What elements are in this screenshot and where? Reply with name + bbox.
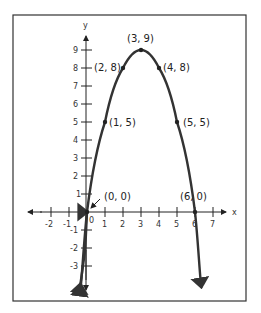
x-axis-label: x <box>232 208 237 217</box>
data-point <box>157 66 161 70</box>
y-tick-label: -2 <box>70 244 78 253</box>
point-label: (4, 8) <box>163 62 190 73</box>
data-point <box>103 120 107 124</box>
x-tick-label: 2 <box>120 220 125 229</box>
y-axis: y 9 8 7 6 5 4 3 2 1 -1 -2 -3 <box>70 21 92 290</box>
x-tick-label: 7 <box>210 220 215 229</box>
data-point <box>175 120 179 124</box>
data-point <box>139 48 143 52</box>
point-label: (0, 0) <box>104 191 131 202</box>
y-tick-label: 7 <box>73 82 78 91</box>
parabola-chart: x -2 -1 0 1 2 3 4 5 6 7 y <box>0 0 261 313</box>
y-tick-label: 3 <box>73 154 78 163</box>
parabola-curve <box>81 50 202 287</box>
data-point <box>85 210 89 214</box>
x-tick-label: 1 <box>102 220 107 229</box>
data-point <box>193 210 197 214</box>
point-label: (2, 8) <box>94 62 121 73</box>
y-tick-label: 8 <box>73 64 78 73</box>
point-label: (5, 5) <box>183 117 210 128</box>
origin-pointer-arrow <box>91 199 100 208</box>
point-label: (6, 0) <box>180 191 207 202</box>
x-tick-label: 5 <box>174 220 179 229</box>
y-tick-label: -1 <box>70 226 78 235</box>
point-label: (1, 5) <box>109 117 136 128</box>
x-tick-label: 0 <box>89 216 94 225</box>
data-point <box>121 66 125 70</box>
x-axis: x -2 -1 0 1 2 3 4 5 6 7 <box>28 207 237 229</box>
x-tick-label: -2 <box>45 220 53 229</box>
y-tick-label: -3 <box>70 262 78 271</box>
point-label: (3, 9) <box>127 33 154 44</box>
y-tick-label: 1 <box>76 190 81 199</box>
y-tick-label: 6 <box>73 100 78 109</box>
x-tick-label: 4 <box>156 220 161 229</box>
y-tick-label: 4 <box>73 136 78 145</box>
y-tick-label: 2 <box>73 172 78 181</box>
y-axis-label: y <box>83 21 88 30</box>
x-tick-label: 3 <box>138 220 143 229</box>
y-tick-label: 9 <box>73 46 78 55</box>
y-tick-label: 5 <box>73 118 78 127</box>
